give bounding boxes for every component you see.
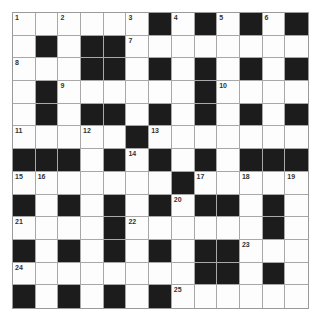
letter-cell[interactable]: 18 [240, 172, 263, 195]
letter-cell[interactable] [126, 104, 149, 127]
letter-cell[interactable] [36, 263, 59, 286]
letter-cell[interactable] [81, 195, 104, 218]
letter-cell[interactable] [217, 126, 240, 149]
letter-cell[interactable]: 17 [195, 172, 218, 195]
letter-cell[interactable] [104, 172, 127, 195]
letter-cell[interactable] [285, 195, 308, 218]
letter-cell[interactable] [149, 263, 172, 286]
letter-cell[interactable] [36, 58, 59, 81]
letter-cell[interactable]: 14 [126, 149, 149, 172]
letter-cell[interactable] [195, 126, 218, 149]
letter-cell[interactable] [126, 195, 149, 218]
letter-cell[interactable] [126, 172, 149, 195]
letter-cell[interactable] [240, 217, 263, 240]
letter-cell[interactable] [172, 263, 195, 286]
letter-cell[interactable] [58, 263, 81, 286]
letter-cell[interactable]: 5 [217, 13, 240, 36]
letter-cell[interactable] [58, 104, 81, 127]
letter-cell[interactable] [240, 263, 263, 286]
letter-cell[interactable] [240, 36, 263, 59]
letter-cell[interactable] [58, 126, 81, 149]
letter-cell[interactable] [13, 81, 36, 104]
letter-cell[interactable] [172, 240, 195, 263]
letter-cell[interactable] [126, 285, 149, 308]
letter-cell[interactable] [172, 81, 195, 104]
letter-cell[interactable] [240, 195, 263, 218]
letter-cell[interactable] [36, 13, 59, 36]
letter-cell[interactable] [217, 172, 240, 195]
letter-cell[interactable] [285, 217, 308, 240]
letter-cell[interactable]: 22 [126, 217, 149, 240]
letter-cell[interactable] [285, 285, 308, 308]
letter-cell[interactable] [285, 240, 308, 263]
letter-cell[interactable] [149, 217, 172, 240]
letter-cell[interactable]: 13 [149, 126, 172, 149]
letter-cell[interactable] [126, 240, 149, 263]
letter-cell[interactable] [58, 172, 81, 195]
letter-cell[interactable] [36, 285, 59, 308]
letter-cell[interactable] [263, 126, 286, 149]
letter-cell[interactable]: 9 [58, 81, 81, 104]
letter-cell[interactable] [58, 36, 81, 59]
letter-cell[interactable] [13, 104, 36, 127]
letter-cell[interactable] [217, 285, 240, 308]
letter-cell[interactable] [240, 81, 263, 104]
letter-cell[interactable] [263, 104, 286, 127]
letter-cell[interactable]: 25 [172, 285, 195, 308]
letter-cell[interactable] [126, 81, 149, 104]
letter-cell[interactable]: 16 [36, 172, 59, 195]
letter-cell[interactable] [126, 263, 149, 286]
letter-cell[interactable] [58, 217, 81, 240]
letter-cell[interactable]: 19 [285, 172, 308, 195]
letter-cell[interactable]: 4 [172, 13, 195, 36]
letter-cell[interactable] [81, 81, 104, 104]
letter-cell[interactable] [217, 58, 240, 81]
letter-cell[interactable] [195, 217, 218, 240]
letter-cell[interactable]: 21 [13, 217, 36, 240]
letter-cell[interactable]: 20 [172, 195, 195, 218]
letter-cell[interactable] [217, 217, 240, 240]
letter-cell[interactable] [285, 81, 308, 104]
letter-cell[interactable] [240, 126, 263, 149]
letter-cell[interactable]: 12 [81, 126, 104, 149]
letter-cell[interactable] [126, 58, 149, 81]
letter-cell[interactable] [81, 13, 104, 36]
letter-cell[interactable] [104, 81, 127, 104]
letter-cell[interactable] [172, 126, 195, 149]
letter-cell[interactable] [217, 104, 240, 127]
letter-cell[interactable]: 2 [58, 13, 81, 36]
letter-cell[interactable] [149, 172, 172, 195]
letter-cell[interactable]: 1 [13, 13, 36, 36]
letter-cell[interactable] [263, 285, 286, 308]
letter-cell[interactable] [104, 13, 127, 36]
letter-cell[interactable] [263, 240, 286, 263]
letter-cell[interactable] [81, 285, 104, 308]
letter-cell[interactable] [240, 285, 263, 308]
letter-cell[interactable] [36, 240, 59, 263]
letter-cell[interactable] [172, 149, 195, 172]
letter-cell[interactable] [104, 263, 127, 286]
letter-cell[interactable] [263, 172, 286, 195]
letter-cell[interactable]: 3 [126, 13, 149, 36]
letter-cell[interactable] [285, 126, 308, 149]
letter-cell[interactable] [58, 58, 81, 81]
letter-cell[interactable]: 6 [263, 13, 286, 36]
letter-cell[interactable] [195, 36, 218, 59]
letter-cell[interactable]: 11 [13, 126, 36, 149]
letter-cell[interactable] [81, 240, 104, 263]
letter-cell[interactable] [263, 81, 286, 104]
letter-cell[interactable] [217, 36, 240, 59]
letter-cell[interactable] [81, 263, 104, 286]
letter-cell[interactable] [13, 36, 36, 59]
letter-cell[interactable]: 7 [126, 36, 149, 59]
letter-cell[interactable] [172, 104, 195, 127]
letter-cell[interactable]: 15 [13, 172, 36, 195]
letter-cell[interactable] [36, 195, 59, 218]
letter-cell[interactable] [172, 58, 195, 81]
letter-cell[interactable]: 10 [217, 81, 240, 104]
letter-cell[interactable] [149, 36, 172, 59]
letter-cell[interactable] [285, 263, 308, 286]
letter-cell[interactable] [104, 126, 127, 149]
letter-cell[interactable] [195, 285, 218, 308]
letter-cell[interactable] [81, 217, 104, 240]
